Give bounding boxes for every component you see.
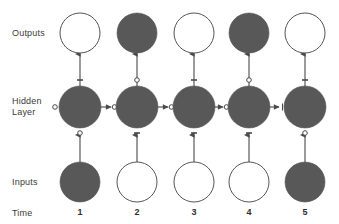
hidden-node-t3 — [173, 86, 215, 128]
hidden-node-t5 — [284, 86, 326, 128]
row-label-hidden-line1: Hidden — [12, 96, 42, 107]
network-diagram — [0, 0, 339, 224]
row-label-time: Time — [12, 208, 32, 219]
input-node-t1 — [60, 162, 100, 202]
time-tick-3: 3 — [182, 207, 206, 217]
row-label-hidden-line2: Layer — [12, 107, 42, 118]
input-node-t5 — [285, 162, 325, 202]
input-node-t4 — [229, 162, 269, 202]
time-tick-1: 1 — [68, 207, 92, 217]
weight-marker-o-above-hidden-4 — [247, 78, 252, 83]
time-tick-4: 4 — [237, 207, 261, 217]
row-label-hidden-layer: Hidden Layer — [12, 96, 42, 118]
hidden-node-t4 — [228, 86, 270, 128]
hidden-node-t2 — [116, 86, 158, 128]
hidden-node-t1 — [59, 86, 101, 128]
weight-marker-o-left-of-hidden-1 — [53, 105, 58, 110]
time-tick-2: 2 — [125, 207, 149, 217]
input-node-t3 — [174, 162, 214, 202]
output-node-t5 — [285, 13, 325, 53]
input-node-t2 — [117, 162, 157, 202]
weight-marker-o-below-hidden-5 — [303, 131, 308, 136]
edges-hidden-to-output — [80, 54, 305, 86]
row-label-outputs: Outputs — [12, 28, 45, 39]
figure-canvas: Outputs Hidden Layer Inputs Time 12345 — [0, 0, 339, 224]
output-node-t1 — [60, 13, 100, 53]
hidden-node-row — [59, 86, 326, 128]
input-node-row — [60, 162, 325, 202]
output-node-t2 — [117, 13, 157, 53]
output-node-t3 — [174, 13, 214, 53]
output-node-row — [60, 13, 325, 53]
time-tick-5: 5 — [293, 207, 317, 217]
weight-marker-o-above-hidden-2 — [135, 78, 140, 83]
weight-marker-o-below-hidden-1 — [78, 131, 83, 136]
row-label-inputs: Inputs — [12, 177, 38, 188]
edges-input-to-hidden — [80, 135, 305, 162]
output-node-t4 — [229, 13, 269, 53]
